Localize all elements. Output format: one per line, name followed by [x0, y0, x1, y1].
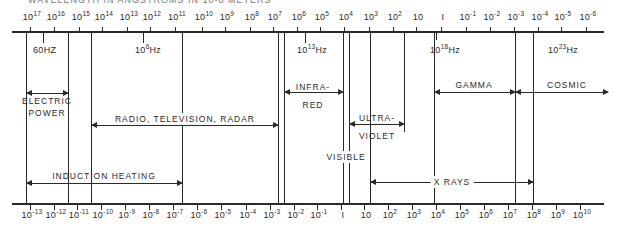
radio-range-arrow: [92, 125, 278, 126]
bottom-axis-tick-label: 10-7: [166, 210, 183, 220]
bottom-axis-tick-label: 10-13: [22, 210, 43, 220]
top-axis-tick-mark: [102, 27, 103, 33]
top-axis-tick-mark: [30, 27, 31, 33]
freq-tick-1e18hz: [436, 32, 437, 40]
top-axis-tick-mark: [250, 27, 251, 33]
freq-label-60hz: 60HZ: [33, 45, 56, 55]
ultraviolet-label: ULTRA- VIOLET: [358, 112, 396, 142]
top-axis-tick-label: 1012: [143, 12, 161, 22]
boundary-line-infrared-right: [343, 32, 344, 203]
top-axis-tick-label: 107: [268, 12, 283, 22]
top-axis-tick-mark: [561, 27, 562, 33]
boundary-line-infrared-left: [284, 32, 285, 203]
top-axis-tick-label: 106: [292, 12, 307, 22]
cosmic-range-arrow: [516, 92, 608, 93]
bottom-axis-tick-label: 103: [407, 210, 422, 220]
top-axis-tick-mark: [54, 27, 55, 33]
electric-power-range-arrow: [27, 93, 68, 94]
top-axis-tick-label: 10-2: [483, 12, 500, 22]
top-axis-tick-mark: [466, 27, 467, 33]
top-axis-tick-label: 102: [388, 12, 403, 22]
freq-label-1e18hz: 1018Hz: [430, 45, 460, 55]
bottom-axis-tick-label: 10-6: [190, 210, 207, 220]
top-axis-tick-label: 1014: [95, 12, 113, 22]
bottom-axis-tick-label: 10-8: [142, 210, 159, 220]
radio-label: RADIO, TELEVISION, RADAR: [111, 113, 259, 125]
induction-heating-label: INDUCTION HEATING: [51, 170, 157, 182]
top-axis-tick-label: 1016: [47, 12, 65, 22]
freq-tick-60hz: [43, 32, 44, 43]
top-axis-tick-label: 10: [413, 12, 424, 22]
top-axis-tick-label: 104: [339, 12, 354, 22]
top-axis-tick-mark: [320, 27, 321, 33]
top-axis-tick-mark: [416, 27, 417, 33]
freq-tick-1e13hz: [305, 32, 306, 43]
top-axis-tick-mark: [79, 27, 80, 33]
infrared-label: INFRA- RED: [295, 81, 331, 111]
bottom-axis-tick-label: 109: [551, 210, 566, 220]
top-axis-tick-mark: [127, 27, 128, 33]
boundary-line-gamma-right: [515, 32, 516, 203]
bottom-axis-tick-label: 1010: [573, 210, 591, 220]
bottom-axis-tick-label: 10-9: [118, 210, 135, 220]
top-axis-tick-label: 10-1: [459, 12, 476, 22]
top-axis-tick-label: 1013: [120, 12, 138, 22]
top-axis-tick-label: 1010: [195, 12, 213, 22]
bottom-axis-tick-label: 10-1: [310, 210, 327, 220]
bottom-axis-tick-label: 108: [527, 210, 542, 220]
electric-power-label: ELECTRIC POWER: [21, 95, 73, 119]
boundary-line-cosmic-left: [533, 32, 534, 203]
top-axis-tick-label: 103: [364, 12, 379, 22]
top-axis-tick-mark: [225, 27, 226, 33]
top-axis-tick-label: 10-4: [531, 12, 548, 22]
freq-label-1e13hz: 1013Hz: [297, 45, 327, 55]
top-axis-tick-label: 10-3: [507, 12, 524, 22]
top-axis-tick-label: 109: [220, 12, 235, 22]
top-axis-tick-mark: [150, 27, 151, 33]
boundary-line-uv-right: [404, 32, 405, 132]
bottom-axis-tick-label: 10: [361, 210, 372, 220]
bottom-axis-tick-label: 10-10: [93, 210, 114, 220]
bottom-axis-tick-label: 106: [479, 210, 494, 220]
top-axis-tick-mark: [175, 27, 176, 33]
boundary-line-visible-right: [349, 32, 350, 203]
top-axis-tick-label: 10-6: [579, 12, 596, 22]
diagram-title: WAVELENGTH IN ANGSTROMS IN 10-8 METERS: [28, 0, 272, 5]
bottom-axis-tick-label: 10-12: [46, 210, 67, 220]
top-axis-tick-mark: [297, 27, 298, 33]
top-axis-tick-label: 1017: [23, 12, 41, 22]
top-axis-tick-mark: [586, 27, 587, 33]
top-axis-tick-mark: [538, 27, 539, 33]
gamma-range-arrow: [435, 92, 515, 93]
visible-label: VISIBLE: [325, 151, 366, 163]
freq-label-1e6hz: 106Hz: [135, 45, 161, 55]
bottom-axis-tick-label: 105: [455, 210, 470, 220]
bottom-axis-tick-label: 10-11: [69, 210, 89, 220]
top-axis-tick-label: 1011: [168, 12, 186, 22]
freq-label-1e23hz: 1023Hz: [548, 45, 578, 55]
top-axis-tick-label: 108: [245, 12, 260, 22]
bottom-axis-tick-label: 10-2: [287, 210, 304, 220]
bottom-axis-tick-label: 107: [503, 210, 518, 220]
top-axis-tick-label: I: [442, 12, 445, 22]
freq-tick-1e6hz: [143, 32, 144, 43]
gamma-label: GAMMA: [454, 79, 493, 91]
bottom-axis-tick-label: 102: [383, 210, 398, 220]
bottom-axis-tick-label: 10-4: [239, 210, 256, 220]
cosmic-label: COSMIC: [546, 79, 588, 91]
x-rays-label: X RAYS: [431, 176, 474, 188]
top-axis-tick-mark: [273, 27, 274, 33]
bottom-axis-tick-label: 104: [431, 210, 446, 220]
top-axis-tick-label: 1015: [72, 12, 90, 22]
top-axis-tick-mark: [441, 27, 442, 33]
induction-heating-range-arrow: [27, 183, 182, 184]
bottom-axis-tick-label: I: [342, 210, 345, 220]
bottom-axis-tick-label: 10-5: [214, 210, 231, 220]
top-axis-tick-mark: [490, 27, 491, 33]
top-axis-tick-mark: [202, 27, 203, 33]
boundary-line-radio-right: [278, 32, 279, 203]
bottom-axis-tick-label: 10-3: [263, 210, 280, 220]
top-axis-tick-label: 10-5: [554, 12, 571, 22]
top-axis-tick-label: 105: [315, 12, 330, 22]
top-axis-tick-mark: [393, 27, 394, 33]
